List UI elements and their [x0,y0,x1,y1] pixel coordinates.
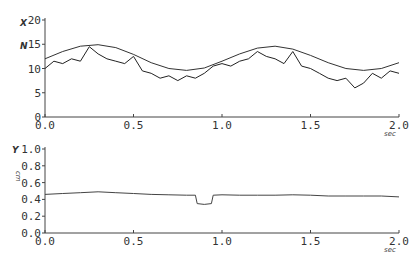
y-tick-label: 10 [28,63,41,76]
envelope-line [45,45,399,71]
position-line [45,192,399,205]
force-line [45,47,399,88]
upper-x-label: sec [384,130,396,138]
y-tick-label: 15 [28,38,41,51]
y-tick-label: 0.6 [21,177,41,190]
lower-chart: 0.00.20.40.60.81.0 0.00.51.01.52.0 Y cm … [12,143,409,254]
y-tick-label: 5 [34,87,41,100]
y-tick-label: 0.4 [21,193,41,206]
y-tick-label: 1.0 [21,143,41,156]
upper-y-ticks: 05101520 [28,14,45,124]
x-tick-label: 0.5 [124,119,144,132]
x-tick-label: 1.0 [212,119,232,132]
upper-y-unit: N [20,41,28,51]
lower-y-unit: cm [14,171,22,182]
x-tick-label: 0.5 [124,235,144,248]
y-tick-label: 0.8 [21,160,41,173]
x-tick-label: 1.5 [301,235,321,248]
upper-y-label: X [19,18,28,28]
y-tick-label: 0.2 [21,210,41,223]
y-tick-label: 20 [28,14,41,27]
x-tick-label: 1.0 [212,235,232,248]
lower-y-label: Y [12,145,20,155]
lower-y-ticks: 0.00.20.40.60.81.0 [21,143,45,240]
x-tick-label: 0.0 [35,119,55,132]
x-tick-label: 0.0 [35,235,55,248]
upper-chart: 05101520 0.00.51.01.52.0 X N sec [19,14,409,138]
lower-x-label: sec [384,246,396,254]
chart-canvas: 05101520 0.00.51.01.52.0 X N sec 0.00.20… [0,0,417,270]
x-tick-label: 1.5 [301,119,321,132]
